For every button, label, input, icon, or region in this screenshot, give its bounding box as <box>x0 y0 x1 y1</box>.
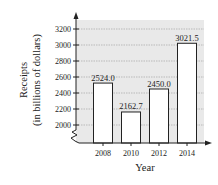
y-tick-label: 2600 <box>55 73 71 82</box>
bar <box>150 89 169 143</box>
data-label: 2450.0 <box>147 79 170 89</box>
data-label: 2524.0 <box>91 73 114 83</box>
bar <box>94 83 113 143</box>
y-axis-arrow <box>74 12 79 19</box>
x-axis-title: Year <box>135 162 155 173</box>
bar <box>178 43 197 143</box>
y-axis-subtitle: (in billions of dollars) <box>31 34 43 126</box>
y-axis-title: Receipts <box>18 62 29 98</box>
x-tick-label: 2008 <box>95 149 111 158</box>
bar <box>122 112 141 143</box>
y-tick-label: 2000 <box>55 121 71 130</box>
y-tick-label: 2400 <box>55 89 71 98</box>
bar-chart: 2524.02162.72450.03021.5 200022002400260… <box>0 0 218 185</box>
data-label: 3021.5 <box>175 33 198 43</box>
x-axis-arrow <box>205 141 212 146</box>
x-tick-label: 2010 <box>123 149 139 158</box>
y-tick-label: 3000 <box>55 41 71 50</box>
data-label: 2162.7 <box>119 101 142 111</box>
y-tick-label: 3200 <box>55 25 71 34</box>
y-tick-label: 2800 <box>55 57 71 66</box>
x-tick-label: 2012 <box>151 149 167 158</box>
x-ticks: 2008201020122014 <box>95 143 195 158</box>
y-ticks: 2000220024002600280030003200 <box>55 25 79 130</box>
y-tick-label: 2200 <box>55 105 71 114</box>
x-tick-label: 2014 <box>179 149 195 158</box>
